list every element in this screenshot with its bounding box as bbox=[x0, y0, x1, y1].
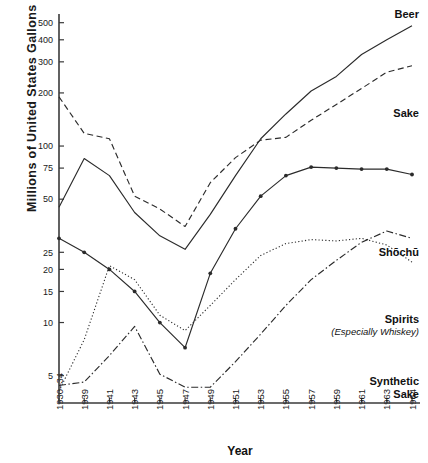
x-axis-tick-label: 1961 bbox=[356, 389, 367, 410]
y-axis-tick-label: 25 bbox=[43, 248, 53, 258]
series-line-sh-ch bbox=[59, 167, 412, 348]
series-line-sake bbox=[59, 66, 412, 227]
data-point-marker bbox=[410, 173, 414, 177]
y-axis-tick-label: 20 bbox=[43, 265, 53, 275]
data-point-marker bbox=[259, 194, 263, 198]
data-point-marker bbox=[82, 250, 86, 254]
series-sublabel-spirits: (Especially Whiskey) bbox=[331, 326, 419, 337]
y-axis-tick-label: 500 bbox=[38, 18, 53, 28]
y-axis-tick-label: 200 bbox=[38, 88, 53, 98]
data-point-marker bbox=[234, 227, 238, 231]
data-point-marker bbox=[57, 236, 61, 240]
y-axis-title: Millions of United States Gallons bbox=[25, 12, 39, 212]
x-axis-tick-label: 1949 bbox=[205, 389, 216, 410]
x-axis-tick-label: 1951 bbox=[230, 389, 241, 410]
x-axis-title: Year bbox=[227, 444, 253, 458]
x-axis-tick-label: 1941 bbox=[104, 389, 115, 410]
data-point-marker bbox=[183, 346, 187, 350]
y-axis-tick-label: 5 bbox=[48, 371, 53, 381]
x-axis-tick-label: 1957 bbox=[306, 389, 317, 410]
x-axis-tick-label: 1963 bbox=[381, 389, 392, 410]
data-point-marker bbox=[284, 174, 288, 178]
chart-container: Millions of United States Gallons 500400… bbox=[0, 0, 428, 463]
data-point-marker bbox=[309, 165, 313, 169]
series-label-sake: Sake bbox=[393, 107, 419, 119]
y-axis-tick-label: 300 bbox=[38, 57, 53, 67]
x-axis-tick-label: 1945 bbox=[154, 389, 165, 410]
data-point-marker bbox=[158, 321, 162, 325]
series-line-synthetic-sake bbox=[59, 238, 412, 391]
series-label-group: BeerSakeShōchūSpirits(Especially Whiskey… bbox=[331, 8, 419, 400]
series-line-spirits-especially-whiskey bbox=[59, 231, 412, 387]
series-label-spirits: Spirits bbox=[385, 313, 419, 325]
y-axis-tick-label: 50 bbox=[43, 194, 53, 204]
x-axis-tick-group: 1930–34193919411943194519471949195119531… bbox=[54, 373, 418, 410]
y-axis-tick-label: 15 bbox=[43, 287, 53, 297]
data-point-marker bbox=[334, 166, 338, 170]
x-axis-tick-label: 1939 bbox=[79, 389, 90, 410]
y-axis-tick-label: 10 bbox=[43, 318, 53, 328]
series-label-sh-ch-: Shōchū bbox=[379, 246, 419, 258]
data-point-marker bbox=[360, 167, 364, 171]
line-chart-plot: 5004003002001007550252015105 1930–341939… bbox=[0, 0, 428, 463]
series-label-synthetic: Synthetic bbox=[369, 375, 419, 387]
x-axis-tick-label: 1953 bbox=[255, 389, 266, 410]
x-axis-tick-label: 1947 bbox=[180, 389, 191, 410]
data-point-marker bbox=[208, 271, 212, 275]
x-axis-tick-label: 1943 bbox=[129, 389, 140, 410]
series-sublabel-synthetic: Sake bbox=[393, 388, 419, 400]
data-point-marker bbox=[385, 167, 389, 171]
y-axis-tick-label: 75 bbox=[43, 163, 53, 173]
y-axis-tick-label: 100 bbox=[38, 141, 53, 151]
data-point-marker bbox=[133, 290, 137, 294]
series-line-beer bbox=[59, 26, 412, 249]
x-axis-tick-label: 1959 bbox=[331, 389, 342, 410]
y-axis-tick-label: 400 bbox=[38, 35, 53, 45]
y-axis-tick-group: 5004003002001007550252015105 bbox=[38, 18, 64, 381]
x-axis-tick-label: 1955 bbox=[280, 389, 291, 410]
series-label-beer: Beer bbox=[395, 8, 420, 20]
